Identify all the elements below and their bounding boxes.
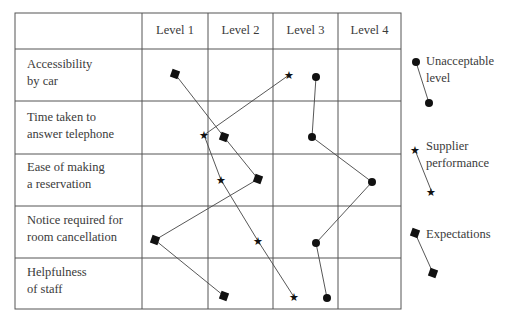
row-label-reservation: Ease of making a reservation — [27, 159, 105, 193]
circle-marker — [308, 133, 316, 141]
row-label-accessibility: Accessibility by car — [27, 56, 92, 90]
star-marker: ★ — [284, 69, 294, 82]
row-label-helpfulness: Helpfulness of staff — [27, 264, 87, 298]
row-label-telephone: Time taken to answer telephone — [27, 109, 114, 143]
square-marker — [150, 235, 160, 245]
series-unacceptable-level — [308, 73, 376, 302]
star-marker: ★ — [199, 129, 209, 142]
column-header-level-4: Level 4 — [338, 23, 401, 38]
circle-marker — [323, 294, 331, 302]
legend-star-icon: ★ — [410, 144, 420, 157]
square-marker — [253, 174, 263, 184]
circle-marker — [312, 239, 320, 247]
column-header-level-1: Level 1 — [142, 23, 208, 38]
legend-circle-icon — [425, 99, 433, 107]
legend-square-icon — [410, 228, 420, 238]
legend-circle-icon — [412, 58, 420, 66]
star-marker: ★ — [289, 291, 299, 304]
legend-unacceptable-level: Unacceptable level — [426, 53, 494, 87]
square-marker — [170, 69, 180, 79]
legend-star-icon: ★ — [426, 186, 436, 199]
column-header-level-2: Level 2 — [208, 23, 273, 38]
legend-expectations: Expectations — [426, 226, 491, 243]
star-marker: ★ — [253, 235, 263, 248]
square-marker — [219, 291, 229, 301]
legend-supplier-performance: Supplier performance — [426, 138, 489, 172]
star-marker: ★ — [216, 174, 226, 187]
column-header-level-3: Level 3 — [273, 23, 338, 38]
legend-square-icon — [428, 268, 438, 278]
square-marker — [219, 132, 229, 142]
circle-marker — [312, 73, 320, 81]
circle-marker — [368, 178, 376, 186]
series-expectations — [150, 69, 263, 301]
row-label-cancellation: Notice required for room cancellation — [27, 212, 123, 246]
series-supplier-performance: ★ ★ ★ ★ ★ — [199, 69, 299, 304]
